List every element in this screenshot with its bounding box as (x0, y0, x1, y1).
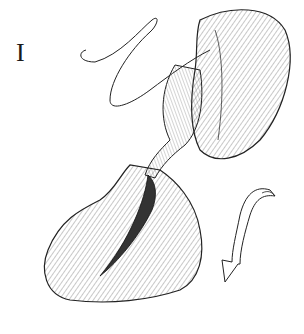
illustration: I (0, 0, 304, 334)
curved-arrow (222, 189, 275, 282)
tubular-structure (145, 65, 202, 178)
organ-upper-lobe (192, 10, 290, 159)
drawing (0, 0, 304, 334)
organ-lower-body (44, 165, 201, 302)
